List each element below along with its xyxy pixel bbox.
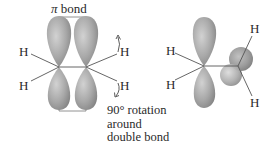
hydrogen-label: H [166,78,175,91]
left-structure [31,16,121,111]
hydrogen-label: H [250,96,259,109]
caption-line: around [107,118,169,132]
hydrogen-label: H [120,45,129,58]
rotation-arrow-down [116,83,119,96]
pi-bond-label: π bond [51,2,87,15]
rotation-caption: 90° rotation around double bond [107,104,169,145]
p-orbital-lobe-bottom-right [75,67,97,110]
hydrogen-label: H [166,44,175,57]
right-structure [175,17,253,108]
hydrogen-label: H [250,22,259,35]
p-orbital-lobe-bottom [194,66,215,108]
p-orbital-lobe-bottom-left [48,67,70,110]
p-orbital-lobe-top [193,17,216,66]
bond-text: bond [58,1,87,16]
hydrogen-label: H [19,45,28,58]
caption-line: 90° rotation [107,104,169,118]
p-orbital-lobe-top-right [74,16,98,67]
p-orbital-lobe-top-left [47,16,71,67]
caption-line: double bond [107,131,169,145]
hydrogen-label: H [19,79,28,92]
hydrogen-label: H [120,79,129,92]
